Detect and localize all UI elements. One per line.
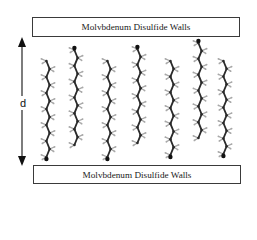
bottom-wall-label: Molvbdenum Disulfide Walls <box>83 170 192 180</box>
chain-head-group <box>44 157 48 161</box>
chain-head-group <box>135 45 139 49</box>
arrowhead-up-icon <box>18 37 26 47</box>
chain-head-group <box>221 154 225 158</box>
arrowhead-down-icon <box>18 156 26 166</box>
alkyl-chain <box>69 46 84 149</box>
alkyl-chain <box>165 58 180 159</box>
chain-head-group <box>72 46 76 50</box>
alkyl-chain <box>218 58 233 158</box>
alkyl-chain <box>132 45 147 147</box>
bottom-molybdenum-disulfide-wall: Molvbdenum Disulfide Walls <box>33 165 241 184</box>
alkyl-chain <box>41 58 56 161</box>
alkyl-chain <box>193 39 208 142</box>
alkyl-chain <box>102 58 117 161</box>
chain-head-group <box>196 39 200 43</box>
chain-head-group <box>105 157 109 161</box>
alkyl-chains <box>41 39 233 161</box>
separation-distance-label: d <box>17 96 29 110</box>
chain-head-group <box>168 155 172 159</box>
